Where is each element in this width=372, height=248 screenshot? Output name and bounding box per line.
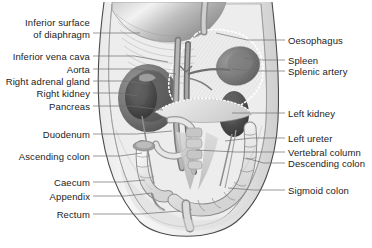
label-vertebral-column-line1: Vertebral column (288, 147, 361, 158)
label-pancreas-line1: Pancreas (0, 101, 90, 112)
label-left-ureter-line1: Left ureter (288, 133, 332, 144)
label-ascending-colon: Ascending colon (0, 151, 90, 162)
anatomical-figure: Inferior surfaceof diaphragmInferior ven… (0, 0, 372, 248)
leader-line-duodenum (93, 131, 172, 134)
label-spleen-line1: Spleen (288, 55, 318, 66)
label-splenic-artery: Splenic artery (288, 66, 347, 77)
label-caecum-line1: Caecum (0, 177, 90, 188)
label-sigmoid-colon: Sigmoid colon (288, 185, 349, 196)
label-descending-colon: Descending colon (288, 158, 365, 169)
label-right-kidney-line1: Right kidney (0, 88, 90, 99)
leader-line-inferior-vena-cava (93, 56, 168, 62)
leader-line-sigmoid-colon (228, 188, 285, 190)
label-inferior-surface-of-diaphragm-line2: of diaphragm (0, 28, 90, 40)
label-appendix-line1: Appendix (0, 191, 90, 202)
label-left-ureter: Left ureter (288, 133, 332, 144)
label-left-kidney-line1: Left kidney (288, 108, 335, 119)
label-inferior-vena-cava-line1: Inferior vena cava (0, 51, 90, 62)
label-vertebral-column: Vertebral column (288, 147, 361, 158)
leader-line-vertebral-column (196, 150, 285, 152)
leader-line-oesophagus (216, 33, 285, 40)
label-caecum: Caecum (0, 177, 90, 188)
leader-line-ascending-colon (93, 153, 142, 156)
leader-line-aorta (93, 69, 176, 74)
label-inferior-vena-cava: Inferior vena cava (0, 51, 90, 62)
leader-line-pancreas (93, 106, 163, 110)
leader-line-appendix (93, 193, 152, 196)
label-right-adrenal-gland: Right adrenal gland (0, 76, 90, 87)
label-spleen: Spleen (288, 55, 318, 66)
leader-line-descending-colon (246, 158, 285, 163)
label-right-adrenal-gland-line1: Right adrenal gland (0, 76, 90, 87)
label-right-kidney: Right kidney (0, 88, 90, 99)
leader-line-rectum (93, 211, 180, 214)
label-rectum: Rectum (0, 209, 90, 220)
label-sigmoid-colon-line1: Sigmoid colon (288, 185, 349, 196)
label-oesophagus-line1: Oesophagus (288, 35, 343, 46)
label-ascending-colon-line1: Ascending colon (0, 151, 90, 162)
leader-line-caecum (93, 180, 145, 182)
label-aorta-line1: Aorta (0, 64, 90, 75)
leader-line-right-adrenal-gland (93, 81, 150, 84)
label-descending-colon-line1: Descending colon (288, 158, 365, 169)
leader-line-right-kidney (93, 93, 138, 96)
label-left-kidney: Left kidney (288, 108, 335, 119)
label-inferior-surface-of-diaphragm: Inferior surfaceof diaphragm (0, 17, 90, 40)
label-inferior-surface-of-diaphragm-line1: Inferior surface (0, 17, 90, 29)
label-splenic-artery-line1: Splenic artery (288, 66, 347, 77)
label-duodenum: Duodenum (0, 129, 90, 140)
label-appendix: Appendix (0, 191, 90, 202)
label-oesophagus: Oesophagus (288, 35, 343, 46)
label-pancreas: Pancreas (0, 101, 90, 112)
leader-line-spleen (243, 58, 285, 60)
label-aorta: Aorta (0, 64, 90, 75)
leader-line-left-ureter (225, 138, 285, 141)
leader-line-splenic-artery (232, 69, 285, 71)
label-rectum-line1: Rectum (0, 209, 90, 220)
label-duodenum-line1: Duodenum (0, 129, 90, 140)
